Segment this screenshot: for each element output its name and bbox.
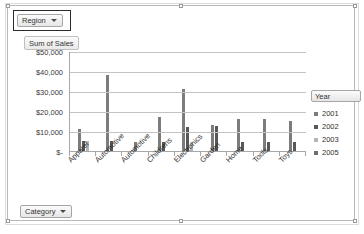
legend-label: 2002 (322, 122, 339, 131)
bar-group[interactable] (201, 52, 227, 151)
legend-swatch (314, 125, 318, 129)
legend-entry: 2003 (311, 133, 361, 146)
value-axis: $50,000$40,000$30,000$20,000$10,000$- (22, 52, 66, 152)
bar-group[interactable] (280, 52, 306, 151)
gridline (70, 52, 306, 53)
bar[interactable] (182, 89, 185, 151)
value-axis-tick-label: $20,000 (36, 108, 63, 117)
resize-handle-bottom-right[interactable] (353, 219, 357, 223)
legend-entry: 2002 (311, 120, 361, 133)
chevron-down-icon[interactable] (60, 210, 66, 213)
legend-swatch (314, 112, 318, 116)
category-axis-labels: ApparelAutomotiveAutomotiveChildrensElec… (22, 156, 306, 200)
resize-handle-top-left[interactable] (6, 4, 10, 8)
resize-handle-bottom-center[interactable] (179, 219, 183, 223)
resize-handle-top-center[interactable] (179, 4, 183, 8)
resize-handle-bottom-left[interactable] (6, 219, 10, 223)
value-axis-tick-label: $50,000 (36, 48, 63, 57)
legend-label: 2005 (322, 148, 339, 157)
chevron-down-icon[interactable] (51, 19, 57, 22)
bar-group[interactable] (254, 52, 280, 151)
pivot-field-button-category[interactable]: Category (20, 205, 72, 218)
bar-series-container (70, 52, 306, 151)
legend-label: 2001 (322, 109, 339, 118)
bar[interactable] (106, 75, 109, 151)
value-axis-tick-label: $30,000 (36, 88, 63, 97)
pivot-field-button-region-label: Region (22, 16, 46, 25)
bar-group[interactable] (227, 52, 253, 151)
gridline (70, 132, 306, 133)
value-axis-tick-label: $40,000 (36, 68, 63, 77)
value-axis-tick-label: $10,000 (36, 128, 63, 137)
chart-legend: Year 2001200220032005 (311, 90, 361, 159)
chart-plot-wrapper: $50,000$40,000$30,000$20,000$10,000$- (22, 52, 306, 152)
legend-swatch (314, 138, 318, 142)
pivot-field-button-category-label: Category (25, 207, 55, 216)
legend-entry: 2005 (311, 146, 361, 159)
pivot-field-button-region[interactable]: Region (17, 14, 63, 27)
resize-handle-top-right[interactable] (353, 4, 357, 8)
gridline (70, 72, 306, 73)
legend-entries: 2001200220032005 (311, 107, 361, 159)
bar[interactable] (289, 121, 292, 151)
pivot-field-button-year-label: Year (315, 92, 330, 101)
gridline (70, 92, 306, 93)
gridline (70, 112, 306, 113)
bar-group[interactable] (149, 52, 175, 151)
pivot-chart-frame[interactable]: Region Sum of Sales $50,000$40,000$30,00… (7, 5, 355, 221)
legend-swatch (314, 151, 318, 155)
bar[interactable] (293, 142, 296, 151)
bar-group[interactable] (70, 52, 96, 151)
legend-entry: 2001 (311, 107, 361, 120)
legend-label: 2003 (322, 135, 339, 144)
pivot-field-button-year[interactable]: Year (311, 90, 361, 102)
plot-area[interactable] (69, 52, 306, 152)
